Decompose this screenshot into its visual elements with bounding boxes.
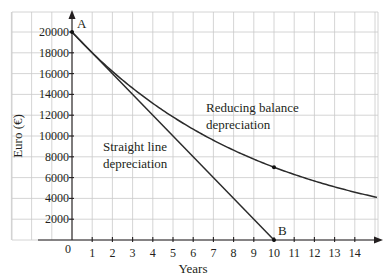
depreciation-chart: 1234567891011121314020004000600080001000… (0, 0, 384, 279)
x-tick-label: 14 (349, 246, 361, 260)
reducing-balance-label: depreciation (206, 117, 271, 132)
x-tick-label: 13 (329, 246, 341, 260)
y-tick-label: 16000 (39, 67, 69, 81)
x-tick-label: 9 (251, 246, 257, 260)
x-tick-label: 11 (288, 246, 300, 260)
annotations: ABStraight linedepreciationReducing bala… (70, 16, 299, 242)
y-tick-label: 18000 (39, 46, 69, 60)
x-axis-label: Years (178, 261, 207, 276)
origin-label: 0 (65, 242, 71, 256)
y-tick-label: 10000 (39, 129, 69, 143)
x-tick-label: 5 (170, 246, 176, 260)
y-axis-label: Euro (€) (10, 114, 25, 158)
x-tick-label: 1 (89, 246, 95, 260)
x-tick-label: 4 (150, 246, 156, 260)
x-axis-arrow-icon (374, 237, 383, 244)
y-tick-label: 4000 (45, 191, 69, 205)
point-a (70, 30, 74, 34)
x-tick-label: 6 (190, 246, 196, 260)
x-tick-label: 8 (231, 246, 237, 260)
reducing-balance-label: Reducing balance (206, 100, 299, 115)
reducing-balance-marker (272, 165, 276, 169)
x-tick-label: 3 (130, 246, 136, 260)
point-a-label: A (77, 16, 87, 31)
point-b-label: B (278, 223, 287, 238)
y-axis-arrow-icon (69, 10, 76, 19)
point-b (272, 238, 276, 242)
x-tick-label: 10 (268, 246, 280, 260)
tick-labels: 1234567891011121314020004000600080001000… (39, 25, 361, 260)
y-tick-label: 2000 (45, 212, 69, 226)
y-tick-label: 20000 (39, 25, 69, 39)
y-tick-label: 8000 (45, 150, 69, 164)
straight-line-label: Straight line (103, 139, 167, 154)
straight-line-label: depreciation (103, 156, 168, 171)
x-tick-label: 12 (308, 246, 320, 260)
x-tick-label: 7 (210, 246, 216, 260)
y-tick-label: 6000 (45, 171, 69, 185)
x-tick-label: 2 (109, 246, 115, 260)
y-tick-label: 12000 (39, 108, 69, 122)
y-tick-label: 14000 (39, 87, 69, 101)
